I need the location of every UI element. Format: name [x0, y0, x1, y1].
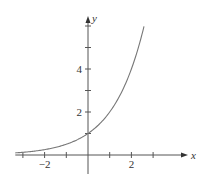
y-axis-label: y [91, 12, 97, 24]
x-tick-label: 2 [129, 158, 135, 170]
x-axis-arrow [181, 153, 188, 158]
y-tick-label: 4 [77, 63, 83, 75]
y-tick-label: 2 [77, 106, 83, 118]
exponential-curve [15, 26, 144, 152]
chart: x y −2224 [0, 0, 205, 174]
y-axis-arrow [86, 16, 91, 23]
x-tick-label: −2 [39, 158, 51, 170]
x-axis-label: x [190, 149, 196, 161]
